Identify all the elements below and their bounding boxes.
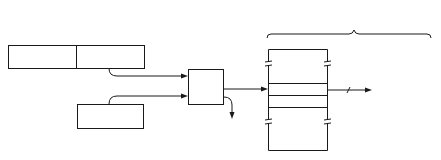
adder-to-low-arrowhead [261, 87, 268, 92]
zero-page-break-mark [265, 119, 272, 124]
zero-page-break-mark [265, 61, 272, 66]
instruction-bytes [9, 46, 145, 69]
adder-box [189, 70, 224, 105]
byte2-box [77, 46, 145, 69]
byte2-to-adder-line [109, 69, 184, 77]
carry-arrowhead [230, 112, 235, 119]
zero-page-break-mark [324, 119, 331, 124]
x-to-adder-line [109, 96, 184, 104]
segment-brace [267, 30, 431, 38]
byte2-to-adder-arrowhead [181, 74, 188, 79]
opcode-box [9, 46, 77, 69]
x-to-adder-arrowhead [181, 94, 188, 99]
zero-page-top-edge [269, 50, 328, 63]
line-no-arrowhead [365, 88, 372, 93]
zero-page-bottom-edge [269, 124, 328, 151]
indirect-indexed-addressing-diagram [0, 0, 441, 160]
zero-page-column [265, 50, 331, 151]
x-register-box [78, 105, 144, 129]
zero-page-break-mark [324, 61, 331, 66]
